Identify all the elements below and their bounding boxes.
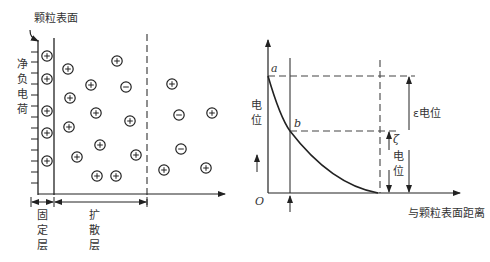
- double-layer-diagram: [0, 0, 490, 262]
- right-panel: [257, 40, 460, 212]
- potential-curve: [268, 76, 378, 193]
- point-b-label: b: [294, 118, 301, 129]
- surface-label: 颗粒表面: [34, 13, 78, 24]
- positive-ion-icon: [207, 108, 217, 118]
- positive-ion-icon: [159, 165, 169, 175]
- positive-ion-icon: [65, 93, 75, 103]
- positive-ion-icon: [42, 156, 52, 166]
- positive-ion-icon: [92, 171, 102, 181]
- positive-ion-icon: [42, 51, 52, 61]
- diffuse-layer-label: 扩散层: [88, 208, 100, 253]
- positive-ion-icon: [86, 80, 96, 90]
- positive-ion-icon: [72, 152, 82, 162]
- positive-ion-icon: [112, 56, 122, 66]
- positive-ion-icon: [64, 122, 74, 132]
- positive-ion-icon: [111, 171, 121, 181]
- positive-ion-icon: [91, 108, 101, 118]
- positive-ion-icon: [63, 64, 73, 74]
- ions-group: [42, 51, 217, 181]
- positive-ion-icon: [42, 74, 52, 84]
- positive-ion-icon: [95, 140, 105, 150]
- positive-ion-icon: [167, 79, 177, 89]
- point-a-label: a: [271, 63, 278, 74]
- zeta-potential-label: 电位: [392, 149, 404, 179]
- net-charge-label: 净负电荷: [16, 57, 28, 117]
- positive-ion-icon: [201, 163, 211, 173]
- negative-charge-ticks: [31, 52, 38, 183]
- negative-ion-icon: [176, 144, 186, 154]
- negative-ion-icon: [121, 82, 131, 92]
- origin-label: O: [255, 196, 264, 207]
- positive-ion-icon: [131, 150, 141, 160]
- epsilon-potential-label: ε电位: [413, 108, 441, 119]
- negative-ion-icon: [174, 110, 184, 120]
- x-axis-label: 与颗粒表面距离: [408, 208, 485, 219]
- zeta-symbol: ζ: [393, 134, 399, 145]
- positive-ion-icon: [42, 128, 52, 138]
- fixed-layer-label: 固定层: [36, 208, 48, 253]
- positive-ion-icon: [42, 106, 52, 116]
- potential-axis-label: 电位: [250, 98, 262, 128]
- surface-pointer-arrow: [30, 30, 38, 41]
- left-panel: [30, 30, 225, 207]
- positive-ion-icon: [125, 116, 135, 126]
